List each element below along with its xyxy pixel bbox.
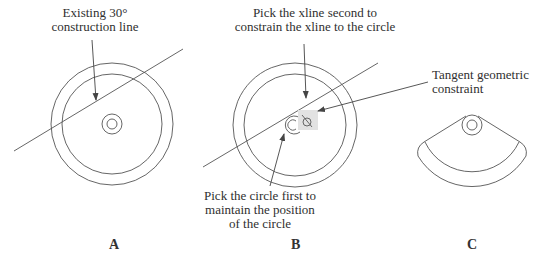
figure-label-b: B [291, 237, 300, 253]
xline [203, 63, 378, 167]
outer-circle [233, 63, 357, 187]
label-line: Tangent geometric [432, 68, 529, 82]
outer-circle [51, 63, 173, 185]
label-line: Pick the xline second to [215, 6, 415, 20]
tangent-callout-arrow [318, 82, 428, 111]
label-line: of the circle [200, 217, 320, 231]
hole-circle [107, 119, 117, 129]
small-circle-inner [288, 120, 296, 130]
callout-arrow [92, 40, 96, 100]
label-pick-circle-first: Pick the circle first to maintain the po… [200, 189, 320, 231]
hole-circle [467, 120, 477, 130]
label-line: construction line [45, 20, 145, 34]
figure-label-c: C [467, 237, 477, 253]
label-line: Pick the circle first to [200, 189, 320, 203]
figure-b [203, 44, 428, 187]
figure-a [14, 40, 183, 185]
xline-callout-arrow [304, 44, 306, 98]
circle-callout-arrow [270, 134, 284, 186]
hub-circle [462, 115, 482, 135]
slot-outline [418, 116, 527, 187]
figure-label-a: A [109, 237, 119, 253]
label-pick-xline-second: Pick the xline second to constrain the x… [215, 6, 415, 34]
hub-circle [102, 114, 122, 134]
inner-arc [425, 142, 519, 172]
label-line: maintain the position [200, 203, 320, 217]
inner-circle [62, 74, 162, 174]
label-tangent-constraint: Tangent geometric constraint [432, 68, 529, 96]
inner-circle [244, 74, 346, 176]
tangent-constraint-box [298, 110, 318, 130]
label-line: Existing 30° [45, 6, 145, 20]
label-line: constraint [432, 82, 529, 96]
label-existing-construction-line: Existing 30° construction line [45, 6, 145, 34]
label-line: constrain the xline to the circle [215, 20, 415, 34]
figure-c [418, 115, 527, 187]
